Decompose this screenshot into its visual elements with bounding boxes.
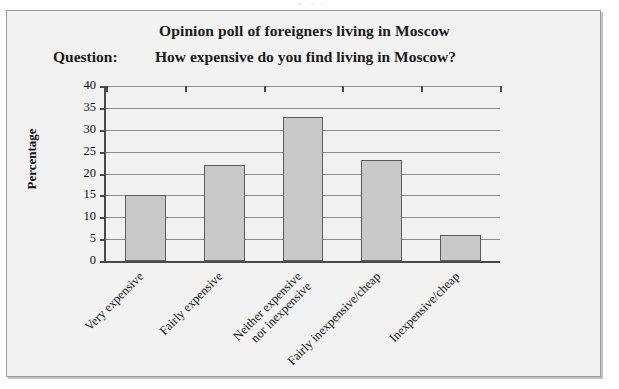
y-axis-tick-label: 10 (62, 210, 96, 223)
y-axis-tick-label: 5 (62, 232, 96, 245)
clipped-top-text: Activity (249, 0, 379, 5)
x-axis-category-label: Fairly expensive (158, 270, 226, 338)
x-axis-tick (264, 86, 266, 92)
x-axis-category-label-line: Very expensive (83, 270, 147, 334)
y-axis-tick (100, 174, 106, 176)
x-axis-category-label: Very expensive (83, 270, 147, 334)
y-axis-tick (100, 152, 106, 154)
x-axis-category-label-line: Inexpensive/cheap (387, 270, 462, 345)
gridline (106, 108, 500, 109)
bar (361, 160, 402, 261)
plot-wrapper: Percentage 0510152025303540 Very expensi… (7, 11, 602, 378)
y-axis-tick-label: 0 (62, 254, 96, 267)
bar (204, 165, 245, 261)
x-axis-tick (185, 86, 187, 92)
x-axis-tick (421, 86, 423, 92)
x-axis-tick (106, 86, 108, 92)
gridline (106, 86, 500, 87)
y-axis-tick (100, 195, 106, 197)
bar (440, 235, 481, 261)
y-axis-tick-label: 20 (62, 167, 96, 180)
y-axis-tick-label: 30 (62, 123, 96, 136)
y-axis-tick-label: 15 (62, 188, 96, 201)
x-axis-tick (342, 86, 344, 92)
bar (125, 195, 166, 261)
y-axis-tick-label: 25 (62, 145, 96, 158)
y-axis-tick-label: 40 (62, 79, 96, 92)
y-axis-tick (100, 130, 106, 132)
y-axis-tick (100, 108, 106, 110)
y-axis-tick-label: 35 (62, 101, 96, 114)
y-axis-tick (100, 239, 106, 241)
chart-figure-frame: Opinion poll of foreigners living in Mos… (6, 10, 601, 377)
x-axis-tick (500, 86, 502, 92)
x-axis-category-label-line: Fairly expensive (158, 270, 226, 338)
y-axis-title: Percentage (24, 104, 40, 214)
y-axis-tick (100, 217, 106, 219)
y-axis-tick (100, 261, 106, 263)
bar (283, 117, 324, 261)
x-axis-category-label: Inexpensive/cheap (387, 270, 462, 345)
plot-area: 0510152025303540 (104, 86, 500, 263)
